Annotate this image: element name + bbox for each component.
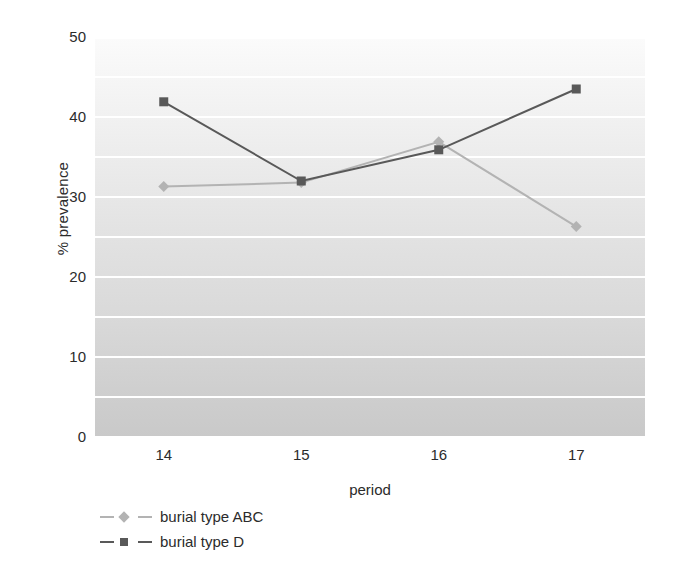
x-axis-tick-label: 17 xyxy=(546,446,606,463)
legend-item[interactable]: burial type D xyxy=(100,529,263,554)
y-axis-tick-labels: 50403020100 xyxy=(48,0,86,572)
legend-line-segment xyxy=(138,516,152,518)
y-axis-tick-label: 20 xyxy=(52,269,86,284)
data-point-marker xyxy=(434,145,443,154)
line-chart: % prevalence 50403020100 14151617 period… xyxy=(0,0,680,572)
y-axis-tick-label: 50 xyxy=(52,29,86,44)
series-line xyxy=(164,89,577,181)
y-axis-tick-label: 30 xyxy=(52,189,86,204)
series-line xyxy=(164,142,577,227)
data-point-marker xyxy=(572,85,581,94)
data-point-marker xyxy=(571,221,582,232)
data-point-marker xyxy=(297,177,306,186)
y-axis-tick-label: 10 xyxy=(52,349,86,364)
legend-item[interactable]: burial type ABC xyxy=(100,504,263,529)
legend-label: burial type D xyxy=(160,533,244,550)
legend-line-segment xyxy=(138,541,152,543)
x-axis-tick-label: 15 xyxy=(271,446,331,463)
x-axis-tick-label: 16 xyxy=(409,446,469,463)
data-point-marker xyxy=(158,181,169,192)
series-canvas xyxy=(95,37,645,437)
x-axis-title: period xyxy=(95,481,645,498)
legend-line-segment xyxy=(100,516,114,518)
y-axis-tick-label: 40 xyxy=(52,109,86,124)
square-marker-icon xyxy=(120,538,128,546)
legend-key xyxy=(100,509,152,525)
x-axis-tick-label: 14 xyxy=(134,446,194,463)
data-point-marker xyxy=(159,97,168,106)
legend-label: burial type ABC xyxy=(160,508,263,525)
y-axis-tick-label: 0 xyxy=(52,429,86,444)
chart-legend: burial type ABCburial type D xyxy=(100,504,263,554)
legend-line-segment xyxy=(100,541,114,543)
legend-key xyxy=(100,534,152,550)
diamond-marker-icon xyxy=(118,511,129,522)
plot-area xyxy=(95,37,645,437)
